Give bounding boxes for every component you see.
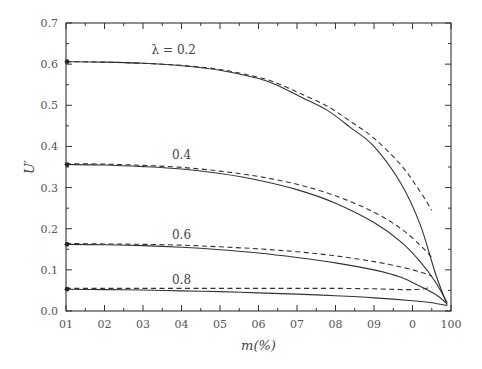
solid-curve [66,165,447,303]
x-tick-label: 08 [329,318,343,331]
dashed-curve [66,62,432,211]
dashed-curve [66,244,432,277]
y-tick-label: 0.5 [41,99,59,112]
y-tick-label: 0.2 [41,223,59,236]
x-tick-label: 07 [290,318,304,331]
x-axis-ticks: 0102030405060708090100 [59,23,462,331]
start-point-marker [65,162,70,167]
start-point-marker [65,242,70,247]
x-tick-label: 02 [98,318,112,331]
curve-labels: λ = 0.20.40.60.8 [152,43,196,287]
start-markers [65,59,70,291]
chart-container: 0102030405060708090100 0.00.10.20.30.40.… [0,0,482,369]
y-tick-label: 0.1 [41,264,59,277]
curve-label: 0.6 [172,228,191,242]
x-tick-label: 06 [252,318,266,331]
curves-group [66,62,447,306]
x-tick-label: 0 [409,318,416,331]
curve-label: 0.4 [172,148,191,162]
y-tick-label: 0.0 [41,305,59,318]
start-point-marker [65,59,70,64]
y-tick-label: 0.7 [41,17,59,30]
solid-curve [66,244,447,303]
x-tick-label: 03 [136,318,150,331]
y-axis-title: U′ [22,160,37,174]
y-tick-label: 0.4 [41,140,59,153]
curve-label: λ = 0.2 [152,43,196,57]
curve-label: 0.8 [172,273,191,287]
x-tick-label: 04 [175,318,189,331]
solid-curve [66,289,447,305]
y-tick-label: 0.3 [41,182,59,195]
x-tick-label: 100 [441,318,462,331]
x-tick-label: 09 [367,318,381,331]
x-tick-label: 01 [59,318,73,331]
line-chart: 0102030405060708090100 0.00.10.20.30.40.… [0,0,482,369]
solid-curve [66,62,447,305]
x-tick-label: 05 [213,318,227,331]
y-tick-label: 0.6 [41,58,59,71]
plot-frame [66,23,451,311]
x-axis-title: m(%) [241,338,276,353]
